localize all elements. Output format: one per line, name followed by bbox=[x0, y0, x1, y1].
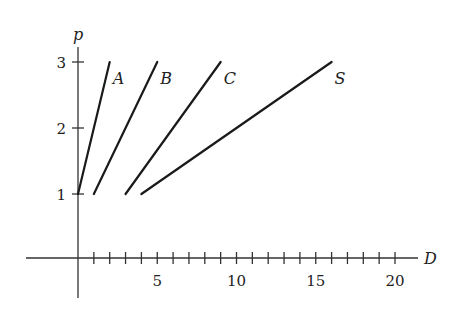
labels: 5101520123pDABCS bbox=[56, 25, 437, 290]
y-tick-label: 1 bbox=[56, 186, 66, 204]
y-tick-label: 3 bbox=[56, 54, 66, 72]
y-tick-label: 2 bbox=[56, 120, 66, 138]
series-label-a: A bbox=[111, 69, 125, 88]
series-line-b bbox=[94, 62, 157, 194]
x-tick-label: 5 bbox=[152, 272, 162, 290]
chart: 5101520123pDABCS bbox=[0, 0, 462, 319]
x-tick-label: 10 bbox=[227, 272, 246, 290]
x-tick-label: 20 bbox=[385, 272, 404, 290]
axes bbox=[26, 47, 418, 298]
series-label-s: S bbox=[335, 69, 346, 88]
series-label-c: C bbox=[224, 69, 236, 88]
x-tick-label: 15 bbox=[306, 272, 325, 290]
x-axis-label: D bbox=[423, 249, 437, 268]
y-axis-label: p bbox=[73, 25, 83, 44]
series-line-c bbox=[126, 62, 221, 194]
series-label-b: B bbox=[159, 69, 172, 88]
